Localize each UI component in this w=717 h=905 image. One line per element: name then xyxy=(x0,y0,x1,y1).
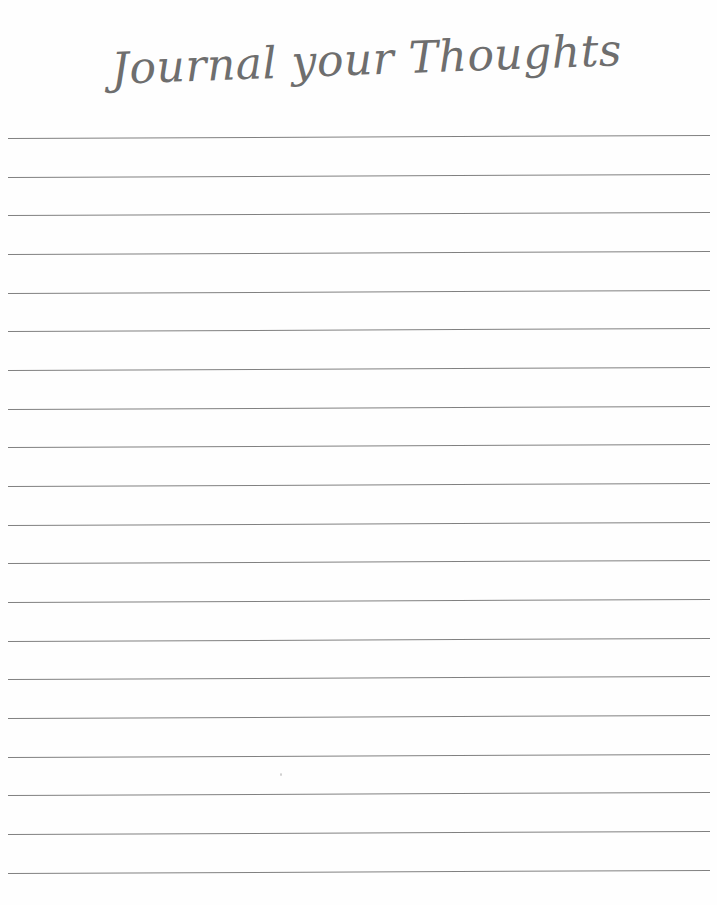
ruled-line xyxy=(8,831,710,835)
ruled-line xyxy=(8,212,710,216)
ruled-line xyxy=(8,174,710,178)
ruled-line xyxy=(8,522,710,526)
ruled-line xyxy=(8,715,710,719)
ruled-line xyxy=(8,328,710,332)
ruled-line xyxy=(8,560,710,564)
paper-speck xyxy=(280,773,282,776)
ruled-line xyxy=(8,676,710,680)
ruled-line xyxy=(8,483,710,487)
journal-page: Journal your Thoughts of the Month: Jour… xyxy=(0,0,717,905)
ruled-line xyxy=(8,599,710,603)
ruled-line xyxy=(8,754,710,758)
ruled-line xyxy=(8,444,710,448)
ruled-line xyxy=(8,870,710,874)
ruled-line xyxy=(8,251,710,255)
ruled-line xyxy=(8,290,710,294)
ruled-line xyxy=(8,367,710,371)
ruled-line xyxy=(8,135,710,139)
ruled-line xyxy=(8,406,710,410)
ruled-lines-area xyxy=(0,0,717,905)
ruled-line xyxy=(8,792,710,796)
ruled-line xyxy=(8,638,710,642)
